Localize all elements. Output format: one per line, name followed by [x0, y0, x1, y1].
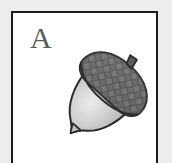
flashcard-root: A	[0, 0, 172, 163]
letter-label: A	[30, 23, 52, 53]
card-frame: A	[11, 11, 158, 163]
acorn-svg	[51, 46, 153, 148]
acorn-illustration	[51, 46, 153, 148]
